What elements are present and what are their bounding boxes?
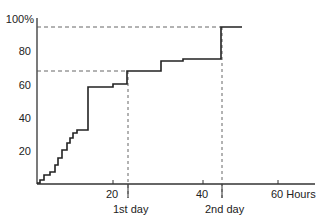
label-1st-day: 1st day (113, 203, 148, 215)
label-2nd-day: 2nd day (205, 203, 244, 215)
x-label-20: 20 (106, 188, 118, 200)
y-label-100: 100% (0, 13, 34, 25)
x-label-40: 40 (196, 188, 208, 200)
x-label-60-hours: 60 Hours (271, 188, 316, 200)
step-series-line (37, 27, 242, 183)
y-label-20: 20 (0, 145, 31, 157)
y-label-80: 80 (0, 45, 31, 57)
y-label-40: 40 (0, 112, 31, 124)
y-label-60: 60 (0, 79, 31, 91)
